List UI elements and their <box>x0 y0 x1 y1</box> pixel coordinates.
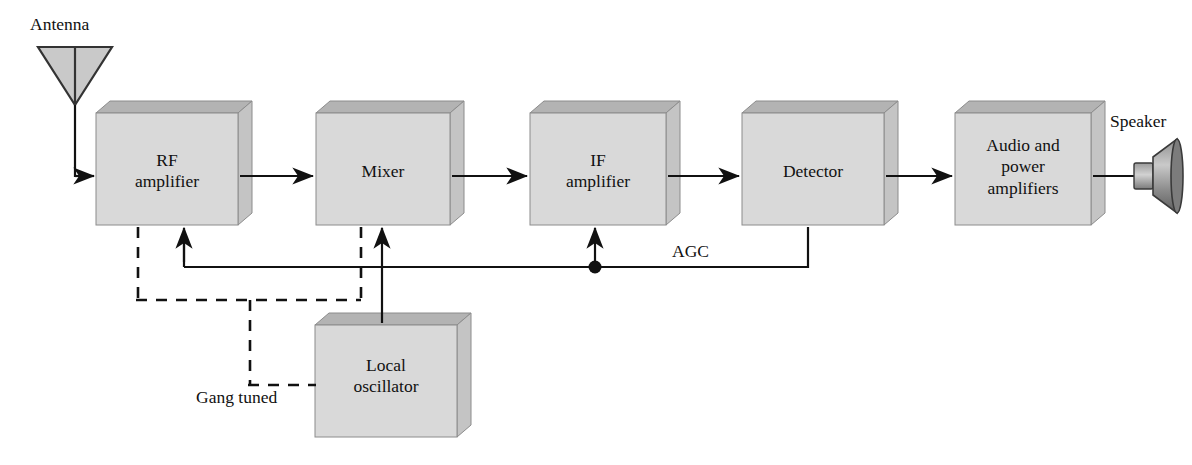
block-rf-amplifier[interactable] <box>96 101 252 225</box>
block-mixer[interactable] <box>316 101 464 225</box>
junction-dot-icon <box>589 261 602 274</box>
block-local-oscillator[interactable] <box>315 313 471 437</box>
antenna-feed-line <box>75 105 94 176</box>
label-antenna: Antenna <box>30 14 89 35</box>
block-detector[interactable] <box>742 101 898 225</box>
label-agc: AGC <box>672 241 709 262</box>
antenna-icon <box>38 47 112 105</box>
speaker-horn-icon <box>1134 139 1183 213</box>
label-gang-tuned: Gang tuned <box>196 387 277 408</box>
agc-feedback-path <box>184 227 808 274</box>
diagram-svg <box>0 0 1192 465</box>
block-audio-power-amplifiers[interactable] <box>955 101 1105 225</box>
block-diagram-canvas: RF amplifier Mixer IF amplifier Detector… <box>0 0 1192 465</box>
block-if-amplifier[interactable] <box>530 101 680 225</box>
label-speaker: Speaker <box>1110 111 1166 132</box>
